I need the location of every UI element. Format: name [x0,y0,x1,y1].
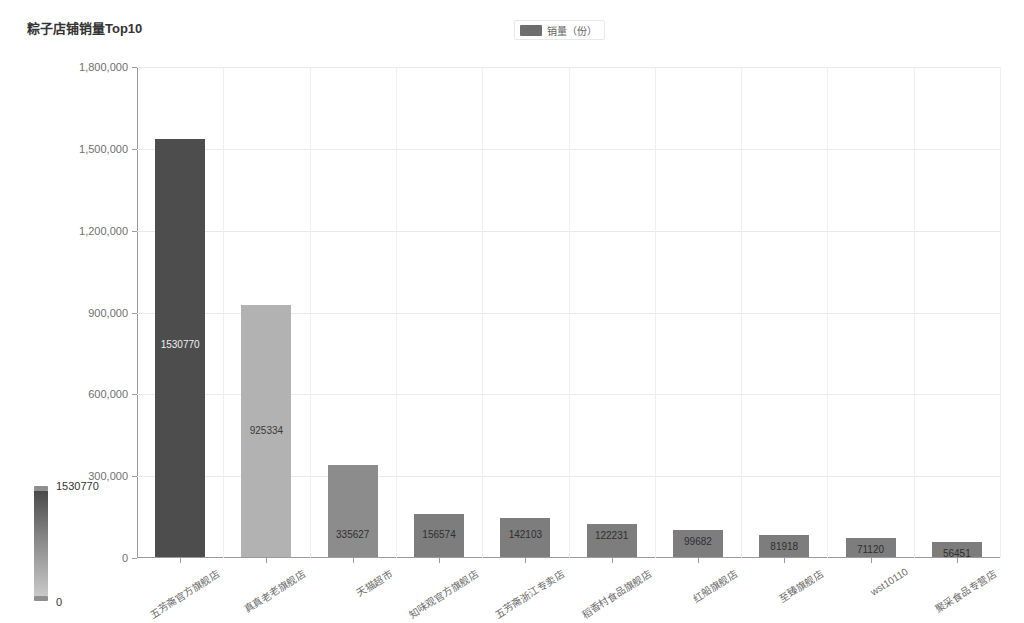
bar[interactable]: 99682 [673,530,723,557]
vertical-gridline [914,67,915,558]
x-axis-tick-label: wst10110 [869,566,911,598]
x-axis-tick-label: 五芳斋官方旗舰店 [146,566,222,621]
page-title: 粽子店铺销量Top10 [27,18,142,37]
bar-value-label: 1530770 [161,339,200,350]
vertical-gridline [569,67,570,558]
bar[interactable]: 81918 [759,535,809,557]
x-axis-tick [957,558,958,563]
x-axis-tick [698,558,699,563]
vertical-gridline [827,67,828,558]
bar-value-label: 156574 [422,529,455,540]
y-axis-tick [132,558,137,559]
bar[interactable]: 335627 [328,465,378,557]
legend-swatch-icon [520,25,542,36]
x-axis-tick [612,558,613,563]
vertical-gridline [482,67,483,558]
x-axis-tick [266,558,267,563]
bar-value-label: 142103 [509,529,542,540]
x-axis-tick [784,558,785,563]
x-axis-tick [353,558,354,563]
y-axis-tick [132,313,137,314]
visual-map[interactable]: 1530770 0 [34,486,48,601]
y-axis-tick-label: 1,500,000 [79,143,128,155]
x-axis-tick-label: 天猫超市 [353,566,395,600]
vertical-gridline [655,67,656,558]
bar-value-label: 122231 [595,530,628,541]
bar[interactable]: 925334 [241,305,291,557]
x-axis-tick-label: 五芳斋浙江专卖店 [491,566,567,621]
x-axis-tick-label: 至臻旗舰店 [776,566,826,605]
y-axis-tick [132,149,137,150]
x-axis-tick-label: 知味观官方旗舰店 [405,566,481,621]
bar[interactable]: 142103 [500,518,550,557]
y-axis-tick-label: 1,200,000 [79,225,128,237]
y-axis-tick-label: 600,000 [88,388,128,400]
bar[interactable]: 1530770 [155,139,205,557]
vertical-gridline [1000,67,1001,558]
visual-map-bottom-handle[interactable] [34,596,48,601]
y-axis-tick [132,67,137,68]
x-axis-tick-label: 红船旗舰店 [690,566,740,605]
vertical-gridline [310,67,311,558]
y-axis-tick-label: 0 [122,552,128,564]
x-axis-tick-label: 聚采食品专营店 [931,566,998,616]
chart-legend[interactable]: 销量（份） [514,20,605,40]
visual-map-gradient[interactable] [34,491,48,596]
bar-value-label: 99682 [684,536,712,547]
bar-value-label: 925334 [250,425,283,436]
bar[interactable]: 71120 [846,538,896,557]
vertical-gridline [396,67,397,558]
y-axis-tick [132,394,137,395]
vertical-gridline [223,67,224,558]
y-axis-tick-label: 300,000 [88,470,128,482]
bar[interactable]: 122231 [587,524,637,557]
plot-area: 0300,000600,000900,0001,200,0001,500,000… [137,67,1000,558]
y-axis-tick-label: 1,800,000 [79,61,128,73]
visual-map-min-label: 0 [56,596,62,608]
vertical-gridline [741,67,742,558]
x-axis-tick [439,558,440,563]
y-axis-tick [132,476,137,477]
legend-item-label[interactable]: 销量（份） [547,23,597,38]
x-axis-tick-label: 真真老老旗舰店 [241,566,308,616]
chart-page: 粽子店铺销量Top10 销量（份） 1530770 0 0300,000600,… [0,0,1024,623]
bar[interactable]: 156574 [414,514,464,557]
bar-value-label: 71120 [857,544,884,555]
y-axis-tick-label: 900,000 [88,307,128,319]
x-axis-tick [525,558,526,563]
bar-value-label: 81918 [770,541,798,552]
x-axis-tick-label: 稻香村食品旗舰店 [578,566,654,621]
bar-value-label: 335627 [336,529,369,540]
y-axis-tick [132,231,137,232]
x-axis-tick [871,558,872,563]
bar[interactable]: 56451 [932,542,982,557]
x-axis-tick [180,558,181,563]
bar-value-label: 56451 [943,548,971,559]
